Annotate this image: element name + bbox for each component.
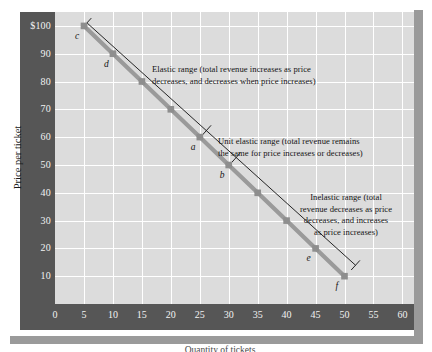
y-tick-label: 50	[41, 160, 51, 170]
x-tick-label: 50	[333, 310, 357, 320]
annotation-inelastic-line1: Inelastic range (total	[282, 192, 410, 204]
x-tick-label: 20	[159, 310, 183, 320]
data-point-marker	[168, 106, 175, 113]
point-label-a: a	[191, 143, 196, 152]
data-point-marker	[254, 190, 261, 197]
y-tick-label: 70	[41, 104, 51, 114]
x-tick-label: 40	[275, 310, 299, 320]
annotation-elastic-range: Elastic range (total revenue increases a…	[152, 64, 367, 87]
x-tick-label: 30	[217, 310, 241, 320]
annotation-inelastic-line3: decreases, and increases	[282, 215, 410, 227]
annotation-inelastic-line4: as price increases)	[282, 227, 410, 239]
y-tick-label: 80	[41, 77, 51, 87]
annotation-unit-line2: the same for price increases or decrease…	[218, 148, 423, 160]
figure-shadow-right	[414, 10, 423, 344]
y-tick-label: $100	[30, 21, 51, 31]
point-label-e: e	[307, 254, 311, 263]
point-label-b: b	[220, 171, 225, 180]
bracket-tick-end	[351, 260, 360, 270]
y-tick-label: 60	[41, 132, 51, 142]
data-point-marker	[312, 245, 319, 252]
x-axis-title: Quantity of tickets	[110, 345, 330, 352]
annotation-inelastic-line2: revenue decreases as price	[282, 204, 410, 216]
data-point-marker	[197, 134, 204, 141]
point-label-d: d	[104, 60, 109, 69]
y-tick-label: 40	[41, 188, 51, 198]
x-tick-label: 5	[72, 310, 96, 320]
y-axis-title: Price per ticket	[12, 113, 23, 203]
x-tick-label: 10	[101, 310, 125, 320]
annotation-inelastic-range: Inelastic range (total revenue decreases…	[282, 192, 410, 238]
data-point-marker	[341, 273, 348, 280]
data-point-marker	[225, 162, 232, 169]
annotation-elastic-line2: decreases, and decreases when price incr…	[152, 76, 367, 88]
data-point-marker	[110, 50, 117, 57]
x-tick-label: 0	[43, 310, 67, 320]
x-tick-label: 25	[188, 310, 212, 320]
figure-shadow-bottom	[10, 336, 423, 344]
annotation-unit-line1: Unit elastic range (total revenue remain…	[218, 136, 423, 148]
data-point-marker	[81, 23, 88, 30]
y-tick-label: 90	[41, 49, 51, 59]
y-tick-label: 20	[41, 243, 51, 253]
y-axis-band	[20, 12, 55, 330]
x-tick-label: 60	[390, 310, 414, 320]
x-tick-label: 45	[304, 310, 328, 320]
y-tick-label: 30	[41, 216, 51, 226]
x-tick-label: 15	[130, 310, 154, 320]
y-tick-label: 10	[41, 271, 51, 281]
point-label-f: f	[336, 282, 339, 291]
annotation-unit-elastic-range: Unit elastic range (total revenue remain…	[218, 136, 423, 159]
chart-figure: Price per ticket $100908070605040302010 …	[0, 0, 432, 352]
point-label-c: c	[75, 32, 79, 41]
x-tick-label: 55	[361, 310, 385, 320]
data-point-marker	[139, 78, 146, 85]
annotation-elastic-line1: Elastic range (total revenue increases a…	[152, 64, 367, 76]
x-tick-label: 35	[246, 310, 270, 320]
